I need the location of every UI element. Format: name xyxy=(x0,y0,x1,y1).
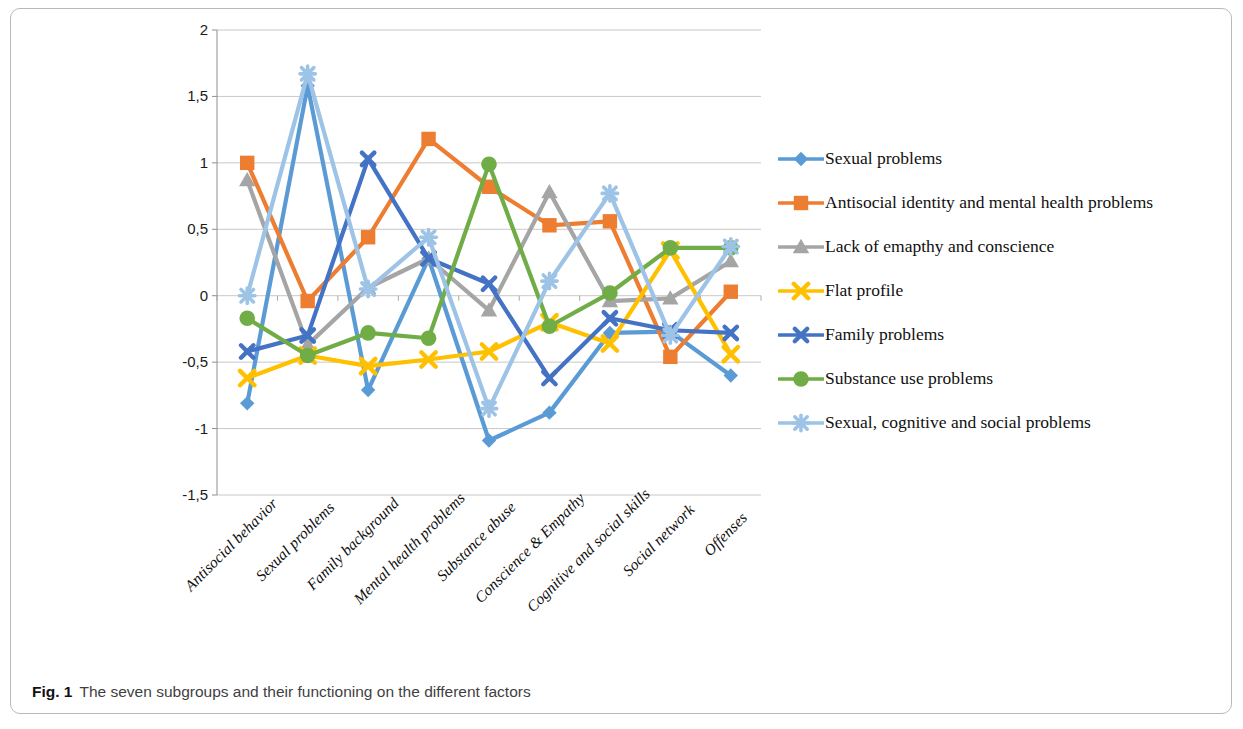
x-axis-tick-label: Conscience & Empathy xyxy=(471,489,589,607)
legend-item-6[interactable]: Substance use problems xyxy=(778,368,1218,390)
legend-item-4[interactable]: Flat profile xyxy=(778,280,1218,302)
figure-caption: Fig. 1The seven subgroups and their func… xyxy=(32,683,531,701)
legend-label: Antisocial identity and mental health pr… xyxy=(825,192,1153,213)
legend-marker-icon xyxy=(778,413,824,433)
legend-marker-icon xyxy=(778,325,824,345)
legend-marker-icon xyxy=(778,237,824,257)
figure-caption-text: The seven subgroups and their functionin… xyxy=(79,683,530,700)
legend-marker-icon xyxy=(778,149,824,169)
data-point-marker xyxy=(794,196,808,210)
data-point-marker xyxy=(793,371,809,387)
data-point-marker xyxy=(793,415,808,430)
x-axis-tick-label: Mental health problems xyxy=(350,489,469,608)
x-axis-tick-labels: Antisocial behaviorSexual problemsFamily… xyxy=(0,0,820,680)
chart-legend: Sexual problemsAntisocial identity and m… xyxy=(778,148,1218,456)
legend-item-3[interactable]: Lack of emapthy and conscience xyxy=(778,236,1218,258)
chart-area: 21,510,50-0,5-1-1,5 Antisocial behaviorS… xyxy=(0,0,1243,660)
legend-item-5[interactable]: Family problems xyxy=(778,324,1218,346)
legend-item-2[interactable]: Antisocial identity and mental health pr… xyxy=(778,192,1218,214)
x-axis-tick-label: Offenses xyxy=(700,509,751,560)
data-point-marker xyxy=(794,152,808,166)
figure-number: Fig. 1 xyxy=(32,683,72,700)
legend-marker-icon xyxy=(778,369,824,389)
legend-label: Sexual problems xyxy=(825,148,942,169)
legend-marker-icon xyxy=(778,281,824,301)
legend-label: Lack of emapthy and conscience xyxy=(825,236,1054,257)
legend-label: Sexual, cognitive and social problems xyxy=(825,412,1091,433)
legend-item-1[interactable]: Sexual problems xyxy=(778,148,1218,170)
legend-label: Substance use problems xyxy=(825,368,993,389)
legend-label: Family problems xyxy=(825,324,944,345)
legend-item-7[interactable]: Sexual, cognitive and social problems xyxy=(778,412,1218,434)
legend-label: Flat profile xyxy=(825,280,903,301)
legend-marker-icon xyxy=(778,193,824,213)
